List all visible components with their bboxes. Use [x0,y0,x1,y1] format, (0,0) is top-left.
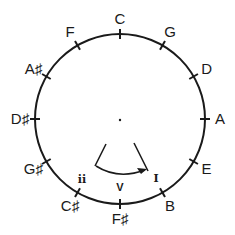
radial-line-ii [95,144,106,166]
note-label: D [201,60,212,77]
arrowhead-icon [137,168,147,174]
roman-i-label: I [153,172,158,185]
note-label: B [165,197,175,214]
note-label: F♯ [112,210,129,227]
progression-arrow [96,166,145,174]
roman-ii-label: ii [78,173,86,186]
note-label: G [164,23,176,40]
note-label: C [115,10,126,27]
note-label: A♯ [25,60,43,77]
radial-line-i [134,143,148,171]
circle-of-fifths-diagram: CGDAEBF♯C♯G♯D♯A♯F ii V I [0,0,235,235]
note-label: D♯ [11,110,30,127]
note-labels: CGDAEBF♯C♯G♯D♯A♯F [11,10,225,227]
center-dot [119,119,121,121]
note-label: C♯ [61,197,80,214]
note-label: F [65,23,74,40]
note-label: E [202,160,212,177]
note-label: G♯ [24,160,44,177]
note-label: A [215,110,225,127]
roman-v-label: V [116,181,124,193]
